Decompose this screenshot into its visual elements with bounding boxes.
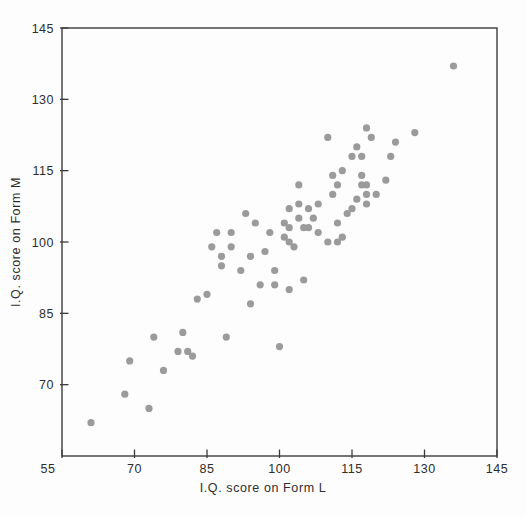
data-point (348, 153, 355, 160)
data-point (363, 200, 370, 207)
data-point (450, 62, 457, 69)
data-point (237, 267, 244, 274)
data-point (315, 200, 322, 207)
data-point (247, 300, 254, 307)
x-tick-label: 145 (486, 462, 508, 476)
data-point (358, 172, 365, 179)
data-point (295, 181, 302, 188)
data-point (189, 353, 196, 360)
data-point (387, 153, 394, 160)
tick-layer: 5570851001151301457085100115130145 (32, 22, 509, 477)
data-point (329, 172, 336, 179)
data-point (310, 215, 317, 222)
data-point (179, 329, 186, 336)
data-point (363, 181, 370, 188)
data-point (218, 253, 225, 260)
y-tick-label: 70 (39, 378, 54, 392)
y-axis-title: I.Q. score on Form M (9, 177, 23, 307)
data-point (348, 205, 355, 212)
data-point (286, 224, 293, 231)
data-point (213, 229, 220, 236)
data-point (228, 243, 235, 250)
data-point (290, 243, 297, 250)
data-point (334, 219, 341, 226)
data-point (223, 334, 230, 341)
data-point (252, 219, 259, 226)
data-point (126, 357, 133, 364)
data-point (339, 167, 346, 174)
data-point (363, 124, 370, 131)
data-point (276, 343, 283, 350)
data-point (324, 134, 331, 141)
data-point (150, 334, 157, 341)
data-point (295, 200, 302, 207)
x-tick-label: 100 (268, 462, 290, 476)
data-point (208, 243, 215, 250)
data-point (145, 405, 152, 412)
data-point (305, 224, 312, 231)
data-point (87, 419, 94, 426)
data-point (174, 348, 181, 355)
x-tick-label: 55 (41, 462, 56, 476)
x-tick-label: 70 (127, 462, 142, 476)
x-tick-label: 115 (341, 462, 362, 476)
data-point (353, 143, 360, 150)
data-point (334, 181, 341, 188)
data-point (286, 205, 293, 212)
data-point-layer (87, 62, 457, 426)
x-tick-label: 130 (413, 462, 435, 476)
data-point (194, 296, 201, 303)
y-tick-label: 145 (32, 22, 54, 36)
data-point (411, 129, 418, 136)
data-point (392, 139, 399, 146)
data-point (286, 286, 293, 293)
scatter-plot-page: 5570851001151301457085100115130145 I.Q. … (0, 0, 526, 516)
data-point (305, 205, 312, 212)
x-axis-title: I.Q. score on Form L (200, 481, 327, 495)
data-point (266, 229, 273, 236)
data-point (373, 191, 380, 198)
data-point (358, 153, 365, 160)
data-point (295, 215, 302, 222)
data-point (121, 391, 128, 398)
data-point (324, 238, 331, 245)
data-point (339, 234, 346, 241)
data-point (382, 177, 389, 184)
data-point (271, 267, 278, 274)
y-tick-label: 115 (33, 164, 54, 178)
data-point (160, 367, 167, 374)
data-point (203, 291, 210, 298)
data-point (271, 281, 278, 288)
data-point (315, 229, 322, 236)
data-point (300, 276, 307, 283)
y-tick-label: 130 (32, 93, 54, 107)
data-point (228, 229, 235, 236)
data-point (368, 134, 375, 141)
data-point (353, 196, 360, 203)
data-point (363, 191, 370, 198)
data-point (329, 191, 336, 198)
data-point (261, 248, 268, 255)
data-point (242, 210, 249, 217)
scatter-plot: 5570851001151301457085100115130145 I.Q. … (0, 0, 526, 516)
y-tick-label: 100 (32, 236, 54, 250)
x-tick-label: 85 (200, 462, 215, 476)
y-tick-label: 85 (39, 307, 54, 321)
data-point (257, 281, 264, 288)
data-point (247, 253, 254, 260)
data-point (218, 262, 225, 269)
